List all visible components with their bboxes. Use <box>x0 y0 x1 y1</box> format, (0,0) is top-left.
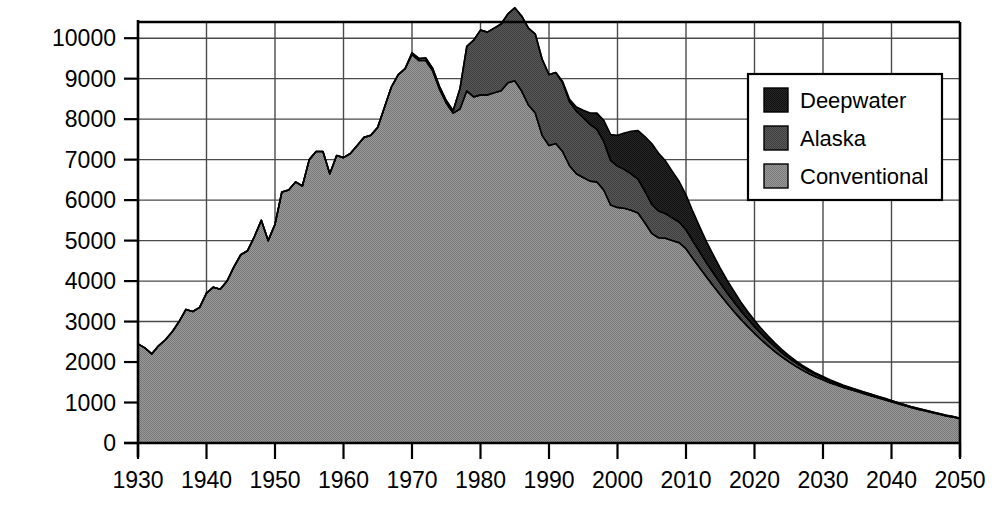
y-tick-label: 5000 <box>65 228 116 254</box>
y-tick-label: 1000 <box>65 390 116 416</box>
y-axis-tick-labels: 0100020003000400050006000700080009000100… <box>52 25 116 456</box>
x-tick-label: 2040 <box>866 467 917 493</box>
legend-swatch <box>764 126 788 150</box>
x-tick-label: 1960 <box>318 467 369 493</box>
legend-label: Conventional <box>800 164 928 189</box>
x-tick-label: 1970 <box>386 467 437 493</box>
chart-legend: DeepwaterAlaskaConventional <box>748 74 942 200</box>
legend-swatch <box>764 88 788 112</box>
y-tick-label: 7000 <box>65 147 116 173</box>
x-tick-label: 1950 <box>249 467 300 493</box>
y-tick-label: 10000 <box>52 25 116 51</box>
chart-figure: 1930194019501960197019801990200020102020… <box>0 0 998 517</box>
y-tick-label: 2000 <box>65 349 116 375</box>
stacked-area-chart: 1930194019501960197019801990200020102020… <box>0 0 998 517</box>
x-tick-label: 1980 <box>455 467 506 493</box>
x-tick-label: 1940 <box>181 467 232 493</box>
x-tick-label: 2020 <box>729 467 780 493</box>
y-tick-label: 9000 <box>65 66 116 92</box>
y-tick-label: 6000 <box>65 187 116 213</box>
y-tick-label: 4000 <box>65 268 116 294</box>
x-tick-label: 2030 <box>797 467 848 493</box>
x-tick-label: 1930 <box>112 467 163 493</box>
y-tick-label: 0 <box>103 430 116 456</box>
y-tick-label: 8000 <box>65 106 116 132</box>
x-tick-label: 2010 <box>660 467 711 493</box>
legend-label: Alaska <box>800 126 867 151</box>
x-axis-tick-labels: 1930194019501960197019801990200020102020… <box>112 467 985 493</box>
y-tick-label: 3000 <box>65 309 116 335</box>
x-tick-label: 1990 <box>523 467 574 493</box>
legend-label: Deepwater <box>800 88 906 113</box>
legend-swatch <box>764 164 788 188</box>
x-tick-label: 2000 <box>592 467 643 493</box>
x-tick-label: 2050 <box>934 467 985 493</box>
